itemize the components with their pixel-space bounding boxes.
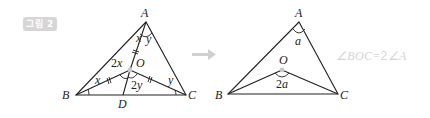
angle-label-a-at-a: a [295,34,301,48]
formula-coef: 2 [381,49,388,63]
vertex-label-a-left: A [140,6,149,20]
angle-arc-o-left [120,75,128,79]
formula-prefix: ∠BOC= [336,49,381,63]
angle-label-x-at-b: x [94,73,101,87]
vertex-label-o-right: O [279,53,288,67]
center-dot-right [280,68,285,73]
vertex-label-b-right: B [215,88,223,102]
segment-od [123,70,130,95]
vertex-label-c-left: C [188,88,197,102]
vertex-label-o-left: O [136,56,145,70]
vertex-label-b-left: B [62,88,70,102]
center-dot-left [128,68,133,73]
angle-arc-b [88,89,89,95]
vertex-label-c-right: C [340,88,349,102]
segment-ob-right [228,70,282,94]
vertex-label-a-right: A [294,6,303,20]
segment-ob [76,70,130,95]
angle-relation-formula: ∠BOC=2∠A [336,49,407,64]
segment-oc-right [282,70,338,94]
angle-label-x-at-a: x [135,31,142,45]
formula-suffix: ∠A [388,49,407,63]
angle-label-2y: 2y [131,78,143,92]
angle-label-2x: 2x [111,56,123,70]
vertex-label-d: D [117,97,127,111]
angle-label-y-at-a: y [145,32,152,46]
angle-label-2a: 2a [276,77,288,91]
arrow-right-icon [192,49,216,60]
angle-label-y-at-c: y [167,73,174,87]
